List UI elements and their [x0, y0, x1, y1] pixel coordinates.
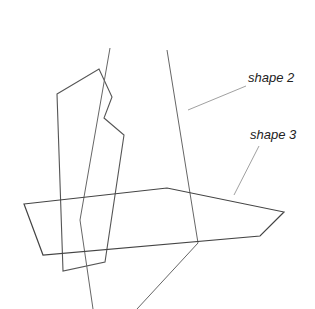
- shape-2-leader-line: [188, 86, 246, 110]
- shape-2-line-a: [80, 48, 110, 309]
- shape-1: [57, 69, 124, 271]
- shape-2-label: shape 2: [248, 70, 295, 85]
- shape-3: [24, 188, 284, 255]
- diagram-canvas: shape 2 shape 3: [0, 0, 315, 309]
- shape-3-leader-line: [234, 146, 259, 195]
- shape-3-label: shape 3: [250, 127, 297, 142]
- shape-2-line-b: [137, 50, 198, 309]
